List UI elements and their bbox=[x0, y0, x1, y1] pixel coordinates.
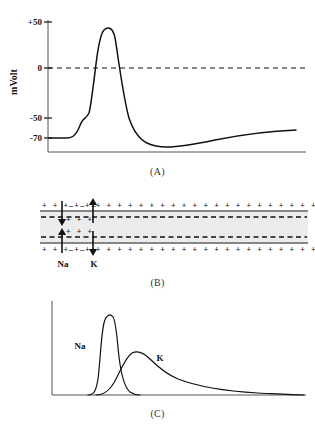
panel-a-membrane-potential-curve bbox=[49, 28, 296, 147]
panel-c-plot: Na K bbox=[0, 295, 315, 405]
panel-b-label-na: Na bbox=[58, 259, 69, 269]
panel-a-caption: (A) bbox=[0, 166, 315, 177]
panel-b-caption: (B) bbox=[0, 277, 315, 288]
panel-a-tick-label-zero: 0 bbox=[38, 63, 43, 73]
charge-row-patch-positive-bottom: + + + bbox=[66, 227, 94, 236]
panel-c-label-na: Na bbox=[75, 341, 86, 351]
panel-c-caption: (C) bbox=[0, 408, 315, 419]
panel-b-label-k: K bbox=[90, 259, 97, 269]
charge-row-patch-positive-top: + + + bbox=[66, 215, 94, 224]
panel-a-action-potential: +50 0 -50 -70 mVolt (A) bbox=[0, 0, 315, 195]
panel-a-tick-label-minus70: -70 bbox=[30, 133, 42, 143]
panel-a-tick-label-minus50: -50 bbox=[30, 113, 42, 123]
panel-c-conductance: Na K (C) bbox=[0, 295, 315, 433]
action-potential-figure: +50 0 -50 -70 mVolt (A) + + + + + + + + … bbox=[0, 0, 315, 433]
panel-b-diagram: + + + + + + + + + + + + + + + + + + + + … bbox=[0, 195, 315, 273]
panel-a-plot: +50 0 -50 -70 mVolt bbox=[0, 0, 315, 160]
panel-a-tick-label-plus50: +50 bbox=[28, 17, 43, 27]
panel-b-membrane: + + + + + + + + + + + + + + + + + + + + … bbox=[0, 195, 315, 295]
panel-c-label-k: K bbox=[156, 353, 163, 363]
panel-a-axis-title-mvolt: mVolt bbox=[8, 68, 19, 94]
